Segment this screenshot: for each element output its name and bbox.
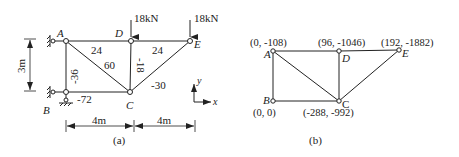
node-label-D-b: D [341, 52, 350, 64]
figure-a: 18kN 18kN A D E B C 24 24 60 -18 -30 -36… [15, 12, 219, 147]
node-A [64, 39, 69, 44]
caption-a: (a) [113, 134, 126, 147]
node-E [188, 39, 193, 44]
coord-B: (0, 0) [253, 107, 276, 119]
force-AC: 60 [104, 59, 116, 71]
axis-indicator-icon [194, 84, 211, 102]
force-DE: 24 [152, 44, 164, 56]
dimension-span2-label: 4m [157, 114, 172, 126]
node-B [64, 90, 69, 95]
force-BC: -72 [77, 93, 92, 105]
node-C-b [337, 99, 341, 103]
figure-b: A D E B C (0, -108) (96, -1046) (192, -1… [250, 37, 434, 147]
node-label-C: C [126, 99, 134, 111]
truss-figure: 18kN 18kN A D E B C 24 24 60 -18 -30 -36… [0, 0, 459, 157]
node-label-E-b: E [401, 47, 409, 59]
node-label-A: A [56, 27, 64, 39]
coord-E: (192, -1882) [381, 37, 434, 49]
force-DC: -18 [135, 58, 147, 73]
member-DC [130, 41, 131, 92]
node-label-D: D [114, 27, 123, 39]
node-label-A-b: A [263, 48, 271, 60]
caption-b: (b) [309, 134, 322, 147]
truss-nodes-a [64, 39, 193, 95]
axis-x-label: x [212, 96, 218, 107]
node-D-b [337, 49, 341, 53]
force-AD: 24 [91, 44, 103, 56]
member-DE-b [339, 50, 399, 51]
dimension-span1-label: 4m [92, 114, 107, 126]
truss-members-b [273, 50, 399, 101]
member-AC-b [273, 51, 339, 101]
dimension-spans [66, 120, 195, 132]
truss-members-a [66, 41, 190, 92]
node-label-B: B [43, 104, 50, 116]
node-B-b [271, 99, 275, 103]
node-label-E: E [193, 38, 201, 50]
truss-nodes-b [271, 48, 401, 103]
node-E-b [397, 48, 401, 52]
force-EC: -30 [151, 79, 166, 91]
coord-D: (96, -1046) [318, 37, 366, 49]
node-D [129, 39, 134, 44]
force-AB: -36 [68, 69, 80, 84]
load-label-E: 18kN [194, 12, 219, 24]
dimension-height-label: 3m [15, 59, 27, 74]
coord-A: (0, -108) [250, 37, 287, 49]
load-label-D: 18kN [134, 12, 159, 24]
support-B-icon [47, 86, 73, 106]
axis-y-label: y [196, 75, 202, 86]
node-C [128, 90, 133, 95]
node-label-B-b: B [263, 94, 270, 106]
node-A-b [271, 49, 275, 53]
coord-C: (-288, -992) [303, 107, 354, 119]
